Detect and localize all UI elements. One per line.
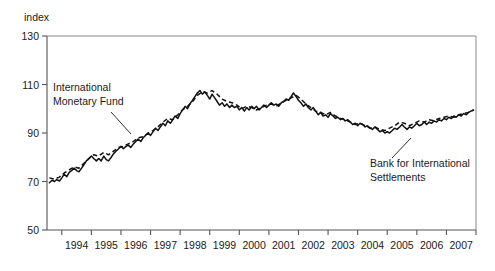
bis-leader-line	[392, 138, 411, 158]
y-tick-label: 50	[27, 224, 39, 236]
y-tick-label: 110	[22, 79, 39, 91]
annotations-group: International Monetary Fund Bank for Int…	[53, 81, 473, 183]
x-tick-label: 2000	[242, 239, 266, 251]
y-tick-label: 70	[27, 176, 39, 188]
bis-annotation-line-2: Settlements	[370, 171, 425, 183]
x-tick-label: 2001	[272, 239, 296, 251]
imf-annotation-line-2: Monetary Fund	[53, 95, 124, 107]
imf-leader-line	[111, 112, 131, 134]
x-tick-label: 2002	[302, 239, 326, 251]
y-tick-label: 130	[21, 30, 39, 42]
index-line-chart: index 507090110130 199419951996199719981…	[0, 0, 495, 271]
plot-axes	[47, 36, 476, 230]
x-tick-label: 1994	[65, 239, 89, 251]
imf-annotation-line-1: International	[53, 81, 111, 93]
plot-frame	[47, 36, 476, 230]
x-tick-label: 2005	[390, 239, 414, 251]
y-tick-label: 90	[27, 127, 39, 139]
imf-annotation-label: International Monetary Fund	[53, 81, 124, 107]
y-axis-unit-label: index	[24, 11, 50, 23]
x-tick-label: 1997	[154, 239, 178, 251]
x-tick-label: 1999	[213, 239, 237, 251]
x-axis-ticks: 1994199519961997199819992000200120022003…	[62, 230, 476, 251]
chart-container: index 507090110130 199419951996199719981…	[0, 0, 495, 271]
bis-annotation-label: Bank for International Settlements	[370, 157, 473, 183]
x-tick-label: 1998	[183, 239, 207, 251]
x-tick-label: 2007	[450, 239, 474, 251]
x-tick-label: 2006	[420, 239, 444, 251]
x-tick-label: 2003	[331, 239, 355, 251]
y-axis-ticks: 507090110130	[21, 30, 47, 236]
x-tick-label: 1996	[124, 239, 148, 251]
bis-annotation-line-1: Bank for International	[370, 157, 470, 169]
x-tick-label: 1995	[94, 239, 118, 251]
x-tick-label: 2004	[361, 239, 385, 251]
